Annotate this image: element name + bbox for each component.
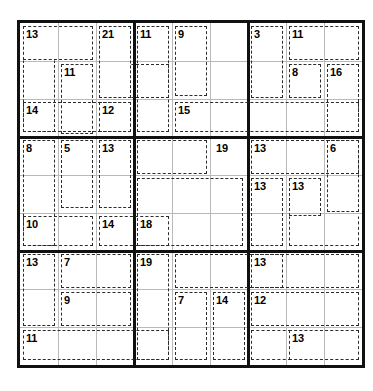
cage-sum-label: 9: [178, 29, 184, 40]
cage-sum-label: 19: [140, 257, 152, 268]
cage-outline-13-r3c6: [251, 140, 359, 174]
cage-sum-label: 14: [26, 105, 38, 116]
sudoku-grid-inner: 13 21 11 14 11 9 12 15 3 11 8 16 8 5 13 …: [20, 23, 362, 365]
cell-line-v7: [286, 23, 287, 365]
cage-sum-label: 9: [64, 295, 70, 306]
box-line-v2: [247, 23, 250, 365]
cage-sum-label: 13: [26, 29, 38, 40]
cage-sum-label: 11: [64, 67, 75, 78]
cell-line-v4: [172, 23, 173, 365]
cage-sum-label: 10: [26, 219, 38, 230]
cage-outline-11-c4: [137, 26, 169, 132]
cage-sum-label: 13: [292, 181, 304, 192]
cage-sum-label: 11: [26, 333, 37, 344]
sudoku-grid[interactable]: 13 21 11 14 11 9 12 15 3 11 8 16 8 5 13 …: [17, 20, 365, 368]
cell-line-h7: [20, 289, 362, 290]
box-line-h1: [20, 136, 362, 139]
cell-line-h4: [20, 175, 362, 176]
cell-line-v8: [324, 23, 325, 365]
cage-sum-label: 5: [64, 143, 70, 154]
cage-sum-label: 13: [254, 181, 266, 192]
cage-sum-label: 13: [292, 333, 304, 344]
cage-outline-13-r0c0-leg: [23, 60, 55, 132]
cell-line-v5: [210, 23, 211, 365]
cage-sum-label: 8: [292, 67, 298, 78]
killer-sudoku-puzzle: 13 21 11 14 11 9 12 15 3 11 8 16 8 5 13 …: [0, 0, 373, 391]
box-line-h2: [20, 250, 362, 253]
cage-outline-21-r1c3: [131, 64, 169, 98]
cell-line-h2: [20, 99, 362, 100]
cage-sum-label: 21: [102, 29, 114, 40]
cage-outline-12-r7: [251, 292, 359, 326]
cage-sum-label: 11: [140, 29, 151, 40]
cage-sum-label: 16: [330, 67, 342, 78]
cage-sum-label: 3: [254, 29, 260, 40]
cage-outline-19-c3: [137, 254, 169, 360]
cage-sum-label: 19: [216, 143, 228, 154]
cell-line-v1: [58, 23, 59, 365]
cage-sum-label: 14: [216, 295, 228, 306]
cage-sum-label: 13: [254, 143, 266, 154]
cell-line-h5: [20, 213, 362, 214]
cell-line-h8: [20, 327, 362, 328]
cell-line-h1: [20, 61, 362, 62]
cell-line-v2: [96, 23, 97, 365]
cage-sum-label: 8: [26, 143, 32, 154]
cage-sum-label: 7: [178, 295, 184, 306]
cage-sum-label: 12: [254, 295, 266, 306]
cage-sum-label: 18: [140, 219, 152, 230]
box-line-v1: [133, 23, 136, 365]
cage-sum-label: 15: [178, 105, 190, 116]
cage-outline-18-block: [137, 178, 243, 246]
cage-sum-label: 13: [26, 257, 38, 268]
cage-sum-label: 12: [102, 105, 114, 116]
cage-outline-8-c0: [23, 140, 55, 246]
cage-outline-r8c6: [251, 330, 291, 360]
cage-outline-r6c4-group: [175, 254, 283, 288]
cage-outline-15-r2: [175, 102, 359, 132]
cage-sum-label: 6: [330, 143, 336, 154]
cage-sum-label: 11: [292, 29, 303, 40]
cage-sum-label: 7: [64, 257, 70, 268]
cage-sum-label: 13: [102, 143, 114, 154]
cage-outline-14-r2: [23, 102, 131, 132]
cage-sum-label: 14: [102, 219, 114, 230]
cage-outline-13-r6: [251, 254, 359, 288]
cage-sum-label: 13: [254, 257, 266, 268]
